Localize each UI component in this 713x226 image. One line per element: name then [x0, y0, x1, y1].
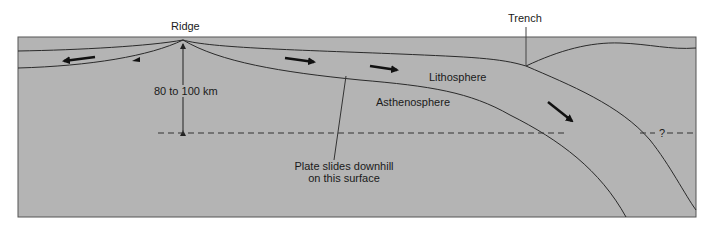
plate-tectonics-diagram — [0, 0, 713, 226]
thickness-label: 80 to 100 km — [154, 85, 218, 97]
plate-slides-line-1: Plate slides downhill — [290, 160, 398, 172]
cross-section-panel — [18, 37, 696, 217]
asthenosphere-label: Asthenosphere — [376, 96, 450, 108]
plate-slides-label: Plate slides downhill on this surface — [290, 160, 398, 184]
unknown-depth-question-mark: ? — [659, 127, 665, 139]
trench-label: Trench — [508, 12, 542, 24]
plate-slides-line-2: on this surface — [290, 172, 398, 184]
ridge-label: Ridge — [171, 20, 200, 32]
lithosphere-label: Lithosphere — [429, 71, 487, 83]
